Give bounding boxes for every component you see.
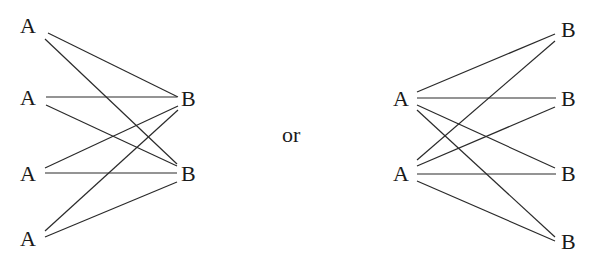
left-edge-a4-b2 (45, 182, 177, 237)
left-edge-a4-b1 (45, 110, 178, 231)
right-node-a2: A (393, 161, 409, 186)
or-connector-label: or (282, 122, 301, 147)
right-edge-a2-b4 (417, 181, 555, 241)
left-edge-a1-b2 (45, 39, 177, 164)
left-node-b2: B (181, 161, 196, 186)
right-graph-a-nodes: A A (393, 86, 409, 186)
left-bipartite-graph: A A A A B B (20, 13, 196, 251)
left-node-a1: A (20, 13, 36, 38)
left-node-b1: B (181, 86, 196, 111)
bipartite-diagram-figure: A A A A B B or A A B B B (0, 0, 605, 260)
right-edge-a2-b1 (417, 41, 555, 160)
right-node-a1: A (393, 86, 409, 111)
left-graph-a-nodes: A A A A (20, 13, 36, 251)
left-node-a3: A (20, 161, 36, 186)
right-node-b4: B (561, 229, 576, 254)
right-node-b1: B (561, 17, 576, 42)
right-edge-a2-b2 (417, 107, 555, 166)
left-edge-a2-b2 (46, 105, 177, 166)
left-graph-edges (45, 33, 178, 237)
left-node-a4: A (20, 226, 36, 251)
left-node-a2: A (20, 85, 36, 110)
right-edge-a1-b1 (417, 34, 555, 92)
left-edge-a3-b1 (45, 106, 178, 168)
left-graph-b-nodes: B B (181, 86, 196, 186)
left-edge-a1-b1 (48, 33, 178, 97)
right-node-b2: B (561, 86, 576, 111)
right-graph-b-nodes: B B B B (561, 17, 576, 254)
right-bipartite-graph: A A B B B B (393, 17, 576, 254)
right-node-b3: B (561, 161, 576, 186)
right-graph-edges (417, 34, 556, 241)
